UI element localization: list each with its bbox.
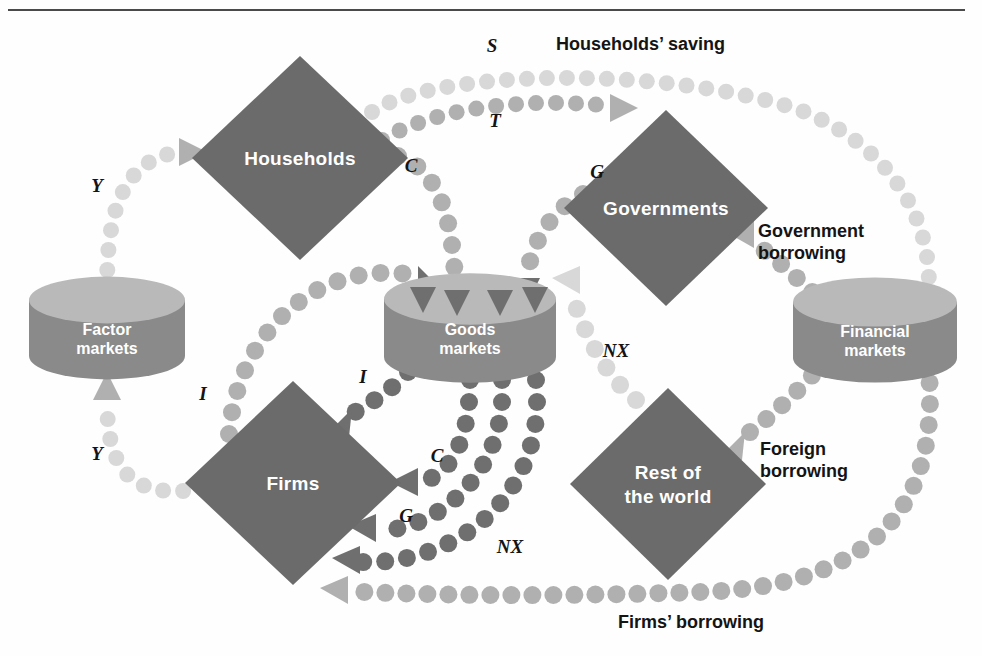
tag-i-right: I: [358, 366, 367, 387]
circular-flow-diagram: HouseholdsGovernmentsFirmsRest ofthe wor…: [0, 0, 982, 656]
flow-y-to-households: [99, 138, 207, 298]
caption-firms-borrowing-line: Firms’ borrowing: [618, 612, 764, 632]
flow-nx-world-to-goods-arrowhead: [552, 266, 580, 294]
tag-y-top: Y: [91, 175, 105, 196]
tag-t: T: [489, 110, 502, 131]
tag-y-bottom: Y: [91, 443, 105, 464]
tag-i-left: I: [198, 383, 207, 404]
caption-government-borrowing-line: borrowing: [758, 243, 846, 263]
caption-government-borrowing: Governmentborrowing: [758, 221, 864, 263]
node-goods-markets-label: markets: [439, 340, 500, 357]
tag-s: S: [487, 35, 498, 56]
caption-households-saving-line: Households’ saving: [556, 34, 725, 54]
flow-nx-world-to-goods: [552, 266, 645, 409]
tag-g-bottom: G: [399, 505, 413, 526]
node-factor-markets: Factormarkets: [29, 277, 185, 380]
caption-government-borrowing-line: Government: [758, 221, 864, 241]
flow-firms-borrowing-arrowhead: [320, 576, 348, 604]
tag-nx-bottom: NX: [496, 536, 525, 557]
caption-foreign-borrowing: Foreignborrowing: [760, 439, 848, 481]
node-rest-of-world: Rest ofthe world: [570, 388, 766, 580]
tag-nx-mid: NX: [602, 340, 631, 361]
caption-households-saving: Households’ saving: [556, 34, 725, 54]
node-governments-label: Governments: [603, 198, 729, 219]
diagram-canvas: HouseholdsGovernmentsFirmsRest ofthe wor…: [0, 0, 982, 656]
node-households-label: Households: [244, 148, 356, 169]
flow-nx-goods-to-firms-arrowhead: [332, 546, 360, 574]
flow-t-households-to-governments-arrowhead: [610, 94, 638, 122]
node-financial-markets: Financialmarkets: [793, 277, 957, 382]
node-governments: Governments: [564, 110, 768, 306]
caption-foreign-borrowing-line: Foreign: [760, 439, 826, 459]
node-factor-markets-label: markets: [76, 340, 137, 357]
node-households: Households: [192, 56, 408, 260]
tag-c-top: C: [405, 155, 418, 176]
node-firms-label: Firms: [266, 473, 319, 494]
tag-c-bottom: C: [431, 445, 444, 466]
caption-firms-borrowing: Firms’ borrowing: [618, 612, 764, 632]
node-firms: Firms: [185, 381, 401, 585]
node-rest-of-world-label: the world: [624, 486, 711, 507]
node-factor-markets-label: Factor: [83, 321, 132, 338]
node-financial-markets-label: markets: [844, 342, 905, 359]
tag-g-top: G: [590, 161, 604, 182]
node-financial-markets-label: Financial: [840, 323, 909, 340]
node-rest-of-world-label: Rest of: [635, 462, 702, 483]
flow-t-households-to-governments: [374, 94, 638, 148]
node-goods-markets-label: Goods: [445, 321, 496, 338]
caption-foreign-borrowing-line: borrowing: [760, 461, 848, 481]
